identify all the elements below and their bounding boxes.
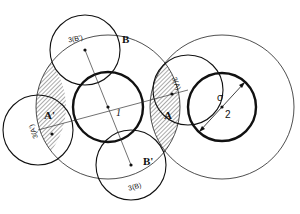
circle-overlap-diagram: B B' A A' 1 2 σ 3(B') 3(B) 3(A) 3(A')	[0, 0, 300, 214]
circle-label-1: 1	[116, 108, 121, 118]
center-dot-a	[170, 92, 173, 95]
region-label-b-prime: B'	[143, 156, 153, 167]
sigma-label: σ	[217, 93, 223, 103]
diameter-arrow	[199, 82, 245, 132]
region-label-a: A	[164, 110, 172, 121]
center-dot-1	[106, 105, 109, 108]
circle-label-2: 2	[225, 110, 231, 120]
center-dot-a-prime	[50, 132, 53, 135]
region-label-b: B	[122, 34, 129, 45]
diagram-graphic	[0, 0, 300, 214]
center-dot-3b	[129, 163, 132, 166]
region-label-a-prime: A'	[44, 110, 55, 121]
center-dot-3b-prime	[83, 48, 86, 51]
